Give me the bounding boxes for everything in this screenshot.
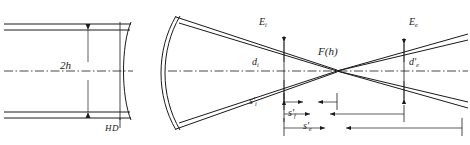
label-lens-plane-hd: HD [105, 124, 119, 133]
lens-element-two [161, 16, 180, 130]
optical-ray-diagram: .s { stroke:#1a1a1a; fill:none; stroke-w… [0, 0, 470, 145]
dimension-sf [284, 105, 404, 122]
label-exit-marker: Ee [409, 17, 418, 28]
label-beam-height: 2h [60, 60, 71, 71]
label-entrance-diameter: di [252, 57, 259, 68]
label-dimension-si: s'i [249, 96, 257, 107]
label-exit-diameter: d'e [409, 57, 419, 68]
label-dimension-sf: s'f [288, 108, 296, 119]
converging-ray-bundle [176, 17, 337, 129]
label-dimension-se: s'e [303, 121, 312, 132]
label-entrance-marker: Ei [259, 17, 267, 28]
diagram-canvas: .s { stroke:#1a1a1a; fill:none; stroke-w… [0, 0, 470, 145]
label-focus-point: F(h) [318, 46, 338, 57]
